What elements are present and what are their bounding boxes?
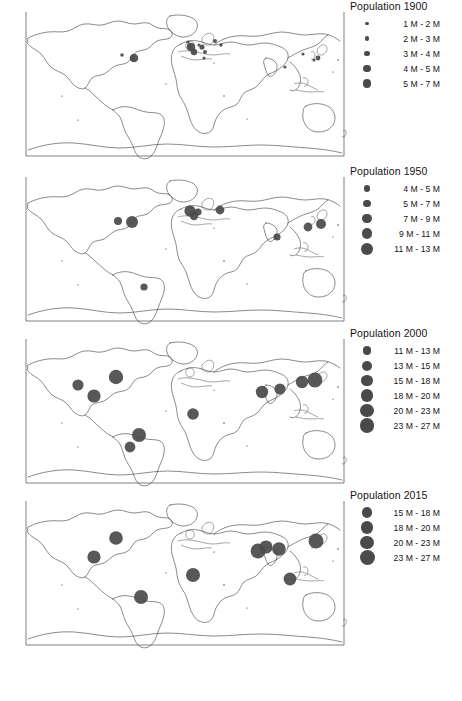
city-dot [219,43,222,46]
legend-circle-icon [365,22,368,25]
legend-symbol [350,228,384,239]
city-dot [125,442,136,453]
legend-label: 20 M - 23 M [384,538,462,548]
legend-label: 15 M - 18 M [384,508,462,518]
legend-row: 3 M - 4 M [350,46,462,61]
world-map-svg [18,165,350,333]
legend-title: Population 1900 [350,0,462,12]
legend-label: 1 M - 2 M [384,19,462,29]
map-panel-1900: Population 1900 1 M - 2 M2 M - 3 M3 M - … [0,0,462,168]
legend-symbol [350,185,384,191]
city-dot [203,50,207,54]
world-map-svg [18,489,350,657]
coastlines [26,12,346,159]
legend-circle-icon [360,550,375,565]
legend-label: 5 M - 7 M [384,79,462,89]
legend-circle-icon [362,228,373,239]
coastlines [26,339,346,486]
legend-symbol [350,346,384,355]
legend-circle-icon [364,185,370,191]
city-dot [126,216,138,228]
legend-symbol [350,389,384,401]
legend-label: 15 M - 18 M [384,376,462,386]
legend-row: 15 M - 18 M [350,373,462,388]
legend-circle-icon [360,404,374,418]
legend-title: Population 1950 [350,165,462,177]
map-panel-2015: Population 2015 15 M - 18 M18 M - 20 M20… [0,489,462,657]
legend-row: 15 M - 18 M [350,505,462,520]
legend-circle-icon [364,51,370,57]
city-dot [301,52,304,55]
legend-label: 18 M - 20 M [384,391,462,401]
legend-label: 5 M - 7 M [384,199,462,209]
legend-rows: 4 M - 5 M5 M - 7 M7 M - 9 M9 M - 11 M11 … [350,181,462,256]
legend-circle-icon [365,36,369,40]
legend-row: 11 M - 13 M [350,343,462,358]
legend-circle-icon [362,507,373,518]
legend-symbol [350,79,384,88]
legend-row: 18 M - 20 M [350,520,462,535]
city-dot [274,383,285,394]
city-dot [202,56,205,59]
legend-symbol [350,243,384,255]
legend-row: 20 M - 23 M [350,403,462,418]
legend-circle-icon [363,346,372,355]
world-map-1950[interactable] [18,165,350,333]
legend-symbol [350,536,384,550]
legend-label: 18 M - 20 M [384,523,462,533]
legend-row: 11 M - 13 M [350,241,462,256]
legend-row: 7 M - 9 M [350,211,462,226]
legend-rows: 1 M - 2 M2 M - 3 M3 M - 4 M4 M - 5 M5 M … [350,16,462,91]
map-panel-2000: Population 2000 11 M - 13 M13 M - 15 M15… [0,327,462,495]
legend-symbol [350,550,384,565]
legend-label: 7 M - 9 M [384,214,462,224]
legend-symbol [350,65,384,72]
legend-row: 20 M - 23 M [350,535,462,550]
city-dots-1900 [120,39,320,69]
legend-title: Population 2015 [350,489,462,501]
legend-circle-icon [361,521,373,533]
city-dot [191,49,197,55]
legend-1950: Population 1950 4 M - 5 M5 M - 7 M7 M - … [350,165,462,256]
city-dot [296,376,308,388]
legend-label: 13 M - 15 M [384,361,462,371]
city-dot [312,58,315,61]
legend-symbol [350,521,384,533]
legend-symbol [350,51,384,57]
legend-row: 5 M - 7 M [350,76,462,91]
legend-row: 4 M - 5 M [350,61,462,76]
city-dot [109,531,123,545]
legend-circle-icon [361,243,373,255]
world-map-1900[interactable] [18,0,350,168]
legend-label: 3 M - 4 M [384,49,462,59]
legend-1900: Population 1900 1 M - 2 M2 M - 3 M3 M - … [350,0,462,91]
city-dot [256,386,268,398]
city-dot [197,43,200,46]
city-dot [87,389,100,402]
legend-2015: Population 2015 15 M - 18 M18 M - 20 M20… [350,489,462,565]
city-dot [188,45,191,48]
world-map-2000[interactable] [18,327,350,495]
legend-circle-icon [360,536,374,550]
legend-row: 18 M - 20 M [350,388,462,403]
legend-label: 11 M - 13 M [384,244,462,254]
city-dot [316,56,321,61]
legend-row: 1 M - 2 M [350,16,462,31]
city-dot [283,65,286,68]
legend-symbol [350,361,384,371]
city-dot [308,373,323,388]
legend-row: 5 M - 7 M [350,196,462,211]
legend-title: Population 2000 [350,327,462,339]
city-dots-2000 [72,370,322,453]
legend-label: 23 M - 27 M [384,553,462,563]
legend-label: 11 M - 13 M [384,346,462,356]
city-dot [114,217,122,225]
legend-label: 4 M - 5 M [384,184,462,194]
legend-circle-icon [363,79,372,88]
city-dot [87,550,100,563]
legend-circle-icon [361,375,372,386]
world-map-2015[interactable] [18,489,350,657]
world-map-svg [18,0,350,168]
city-dot [273,233,280,240]
city-dot [284,573,297,586]
